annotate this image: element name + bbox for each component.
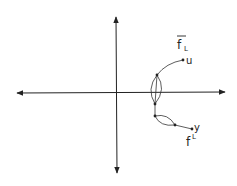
node-inner [174, 124, 177, 127]
node-mid [154, 103, 157, 106]
label-f-lower: f [186, 135, 191, 149]
contour-diagram: u y f L f L [0, 0, 237, 186]
label-sup-L: L [192, 133, 196, 141]
upper-lens [151, 75, 162, 104]
horizontal-axis [17, 92, 225, 93]
path-to-u [157, 60, 183, 75]
node-y [191, 128, 194, 131]
node-low [154, 115, 157, 118]
path-to-y [175, 125, 192, 129]
label-y: y [194, 122, 200, 133]
vertical-axis [116, 17, 117, 173]
label-f-bar-sub-L: f L [177, 36, 188, 53]
label-u: u [186, 55, 192, 66]
lower-lens [155, 115, 175, 125]
node-u [182, 59, 185, 62]
label-f-upper: f [177, 38, 182, 52]
node-top [156, 74, 159, 77]
label-sub-L: L [184, 45, 188, 53]
label-f-sup-L: f L [186, 133, 196, 149]
